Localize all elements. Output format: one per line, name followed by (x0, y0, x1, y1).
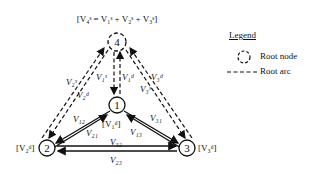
node-3-annotation: [V₃ᵈ] (198, 143, 216, 153)
legend-symbols (227, 51, 258, 72)
node-4-label: 4 (114, 36, 120, 48)
label-v31: V₃₁ (150, 113, 162, 123)
node-2: 2 (39, 140, 55, 156)
label-v2s: V₂ˢ (66, 77, 78, 87)
label-v1d: V₁ᵈ (122, 72, 135, 82)
label-v23: V₂₃ (110, 155, 122, 165)
legend-title: Legend (229, 30, 256, 40)
node-1-label: 1 (114, 99, 120, 111)
label-v3d: V₃ᵈ (151, 72, 164, 82)
node-4: 4 (108, 33, 126, 51)
label-v3s: V₃ˢ (140, 84, 152, 94)
label-v32: V₃₂ (110, 137, 122, 147)
node-1-annotation: [V₁ᵈ] (102, 119, 120, 129)
legend-root-node-icon (238, 51, 250, 63)
node-2-label: 2 (44, 142, 50, 154)
node-3-label: 3 (184, 142, 190, 154)
label-v13: V₁₃ (130, 127, 142, 137)
legend-item-root-arc: Root arc (260, 66, 291, 76)
label-v2d: V₂ᵈ (77, 90, 90, 100)
label-v12: V₁₂ (73, 114, 85, 124)
label-v21: V₂₁ (86, 128, 98, 138)
label-v1s: V₁ˢ (96, 72, 108, 82)
network-diagram: 4 1 2 3 [V₄ˢ = V₁ˢ + V₂ˢ + V₃ˢ] V₁ˢ V₁ᵈ … (0, 0, 314, 174)
root-arc-4-2b (42, 48, 104, 138)
root-arc-4-3a (126, 50, 185, 138)
legend-item-root-node: Root node (260, 51, 297, 61)
node-3: 3 (179, 140, 195, 156)
node-4-equation: [V₄ˢ = V₁ˢ + V₂ˢ + V₃ˢ] (77, 14, 157, 24)
node-1: 1 (109, 97, 125, 113)
node-2-annotation: [V₂ᵈ] (16, 143, 34, 153)
